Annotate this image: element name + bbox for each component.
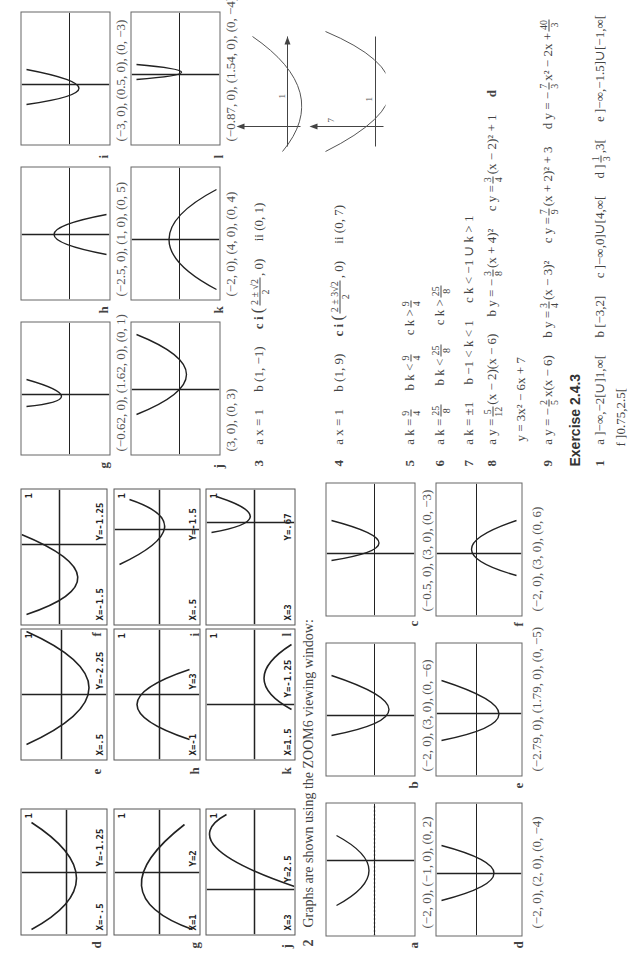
question-number: 1 xyxy=(591,460,606,467)
svg-text:Y=2.5: Y=2.5 xyxy=(282,855,292,882)
graph-i xyxy=(20,11,110,145)
label-graph-b: b xyxy=(405,781,421,788)
graph-d-caption: (−2, 0), (2, 0), (0, −4) xyxy=(528,816,544,928)
label-calc-l: l xyxy=(278,632,294,636)
label-graph-e: e xyxy=(510,782,526,788)
answer-3a: a x = 1 xyxy=(250,408,265,444)
label-graph-d: d xyxy=(510,941,526,948)
question-number: 3 xyxy=(250,460,265,467)
parabola-plot-icon xyxy=(131,322,219,454)
svg-text:X=-1: X=-1 xyxy=(187,733,197,755)
label-graph-a: a xyxy=(405,942,421,949)
answer-3cii: ii (0, 1) xyxy=(250,202,265,241)
answer-8d-equation: y = 3x² − 6x + 7 xyxy=(512,357,528,441)
answer-4b: b (1, 9) xyxy=(330,353,345,391)
answer-5: 5 a k =94 b k <94 c k >94 xyxy=(400,298,421,466)
question-number: 5 xyxy=(401,460,416,467)
label-calc-e: e xyxy=(88,768,104,774)
parabola-plot-icon xyxy=(326,643,414,775)
label-graph-l: l xyxy=(210,154,226,158)
parabola-plot-icon: X=1.5 Y=-1.25 1 xyxy=(206,629,294,759)
label-calc-k: k xyxy=(278,767,294,774)
answer-4: 4 a x = 1 b (1, 9) c i (2 ± 3√22, 0) ii … xyxy=(328,205,350,466)
label-graph-h: h xyxy=(95,306,111,313)
graph-a-caption: (−2, 0), (−1, 0), (0, 2) xyxy=(418,816,434,928)
sketch-3-parabola-icon: 1 xyxy=(232,26,302,156)
svg-text:X=.5: X=.5 xyxy=(187,598,197,620)
parabola-plot-icon: X=.5 Y=-2.25 1 xyxy=(21,629,106,759)
parabola-plot-icon xyxy=(326,803,414,935)
parabola-plot-icon: X=.5 Y=-1.5 1 xyxy=(114,489,199,624)
sketch-4-parabola-icon: 1 7 xyxy=(305,26,385,156)
svg-text:X=3: X=3 xyxy=(282,914,292,930)
graph-a xyxy=(325,802,415,936)
parabola-plot-icon: X=-1 Y=3 1 xyxy=(114,629,199,759)
answer-4ci-label: c i xyxy=(330,323,345,336)
answer-3ci-tail: , 0) xyxy=(250,258,265,275)
parabola-plot-icon xyxy=(436,643,521,775)
svg-text:Y=2: Y=2 xyxy=(187,850,197,866)
answer-3ci-label: c i xyxy=(250,316,265,329)
answer-4a: a x = 1 xyxy=(330,408,345,444)
svg-text:Y=-1.25: Y=-1.25 xyxy=(94,502,104,540)
graph-f-caption: (−2, 0), (3, 0), (0, 6) xyxy=(528,506,544,611)
exercise-heading: Exercise 2.4.3 xyxy=(566,373,582,466)
parabola-plot-icon xyxy=(436,483,521,615)
answer-3ci-fraction: 2 ± √22 xyxy=(249,277,270,305)
parabola-plot-icon xyxy=(21,12,109,144)
question-number: 8 xyxy=(483,460,498,467)
svg-text:X=1: X=1 xyxy=(187,914,197,930)
answer-4ci-fraction: 2 ± 3√22 xyxy=(329,280,350,313)
graph-j xyxy=(130,321,220,455)
svg-text:X=-1.5: X=-1.5 xyxy=(94,587,104,620)
answer-3b: b (1, −1) xyxy=(250,346,265,391)
calc-screen-l: X=3 Y=.67 1 xyxy=(205,488,295,625)
svg-text:X=1.5: X=1.5 xyxy=(282,728,292,755)
svg-text:Y=3: Y=3 xyxy=(187,673,197,689)
label-calc-h: h xyxy=(186,767,202,774)
graph-e-caption: (−2.79, 0), (1.79, 0), (0, −5) xyxy=(528,626,544,771)
graph-l xyxy=(130,11,220,145)
label-graph-f: f xyxy=(510,622,526,626)
svg-text:1: 1 xyxy=(208,493,218,498)
svg-text:1: 1 xyxy=(208,633,218,638)
exercise-answer-1: 1 a ]−∞,−2[∪]1,∞[ b [−3,2] c ]−∞,0]∪[4,∞… xyxy=(590,15,611,467)
svg-text:Y=-2.25: Y=-2.25 xyxy=(94,651,104,689)
label-calc-f: f xyxy=(88,632,104,636)
graph-g xyxy=(20,321,110,455)
parabola-plot-icon xyxy=(131,167,219,299)
label-graph-c: c xyxy=(405,620,421,626)
label-graph-i: i xyxy=(95,154,111,158)
svg-text:1: 1 xyxy=(23,633,33,638)
calc-screen-g: X=1 Y=2 1 xyxy=(113,808,200,935)
parabola-plot-icon: X=-1.5 Y=-1.25 1 xyxy=(21,489,106,624)
parabola-plot-icon: X=3 Y=.67 1 xyxy=(206,489,294,624)
answer-7: 7 a k = ±1 b −1 < k < 1 c k < −1 ∪ k > 1 xyxy=(460,215,476,466)
graph-e xyxy=(435,642,522,776)
calc-screen-e: X=.5 Y=-2.25 1 xyxy=(20,628,107,760)
question-number: 2 xyxy=(300,939,315,946)
parabola-plot-icon xyxy=(21,322,109,454)
answer-4cii: ii (0, 7) xyxy=(330,205,345,244)
calc-screen-k: X=1.5 Y=-1.25 1 xyxy=(205,628,295,760)
calc-screen-h: X=-1 Y=3 1 xyxy=(113,628,200,760)
parabola-plot-icon: X=-.5 Y=-1.25 1 xyxy=(21,809,106,934)
label-calc-g: g xyxy=(186,942,202,949)
svg-text:X=-.5: X=-.5 xyxy=(94,903,104,930)
graph-k xyxy=(130,166,220,300)
question-number: 9 xyxy=(539,460,554,467)
svg-text:1: 1 xyxy=(116,633,126,638)
svg-text:Y=-1.5: Y=-1.5 xyxy=(187,507,197,540)
label-graph-g: g xyxy=(95,462,111,469)
label-graph-k: k xyxy=(210,306,226,313)
calc-screen-d: X=-.5 Y=-1.25 1 xyxy=(20,808,107,935)
question-2-intro: 2Graphs are shown using the ZOOM6 viewin… xyxy=(300,619,316,946)
answer-3: 3 a x = 1 b (1, −1) c i (2 ± √22, 0) ii … xyxy=(248,202,270,466)
graph-f xyxy=(435,482,522,616)
svg-text:1: 1 xyxy=(116,813,126,818)
graph-g-caption: (−0.62, 0), (1.62, 0), (0, 1) xyxy=(112,314,128,451)
exercise-answer-1f: f ]0.75,2.5[ xyxy=(612,388,628,447)
svg-text:1: 1 xyxy=(23,813,33,818)
graph-c-caption: (−0.5, 0), (3, 0), (0, −3) xyxy=(418,489,434,611)
graph-d xyxy=(435,802,522,936)
